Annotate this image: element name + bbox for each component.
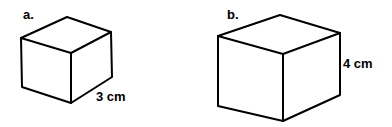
cube-a-label: a.: [23, 7, 34, 22]
cube-a-left-face: [21, 38, 71, 103]
cube-diagram: a. 3 cm b. 4 cm: [0, 0, 392, 127]
cube-a-top-face: [21, 17, 111, 53]
cube-b-right-face: [283, 33, 340, 121]
cube-b-left-face: [218, 36, 283, 121]
cube-b: [218, 15, 340, 121]
cube-b-dimension-label: 4 cm: [343, 56, 373, 71]
cube-a-dimension-label: 3 cm: [96, 89, 126, 104]
cube-b-label: b.: [227, 7, 239, 22]
